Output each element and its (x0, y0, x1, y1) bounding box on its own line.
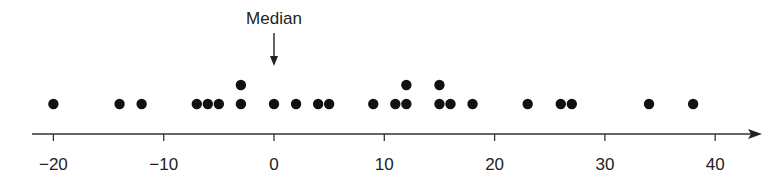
x-tick-label: −10 (149, 155, 178, 174)
data-point (556, 99, 566, 109)
data-point (401, 99, 411, 109)
median-arrow-down-icon (270, 56, 278, 66)
x-tick-label: 40 (706, 155, 725, 174)
x-axis (32, 129, 762, 139)
data-point (401, 80, 411, 90)
data-point (567, 99, 577, 109)
data-point (291, 99, 301, 109)
x-tick-label: 20 (485, 155, 504, 174)
data-point (48, 99, 58, 109)
data-point (114, 99, 124, 109)
data-point (136, 99, 146, 109)
x-tick-label: 0 (269, 155, 278, 174)
data-points (48, 80, 698, 109)
data-point (203, 99, 213, 109)
data-point (368, 99, 378, 109)
data-point (214, 99, 224, 109)
data-point (522, 99, 532, 109)
data-point (688, 99, 698, 109)
data-point (644, 99, 654, 109)
median-label: Median (246, 9, 302, 28)
x-ticks: −20−10010203040 (39, 134, 725, 174)
data-point (390, 99, 400, 109)
data-point (236, 99, 246, 109)
data-point (192, 99, 202, 109)
data-point (324, 99, 334, 109)
x-tick-label: 30 (595, 155, 614, 174)
data-point (313, 99, 323, 109)
x-tick-label: 10 (375, 155, 394, 174)
data-point (269, 99, 279, 109)
median-annotation: Median (246, 9, 302, 66)
data-point (236, 80, 246, 90)
x-tick-label: −20 (39, 155, 68, 174)
data-point (434, 80, 444, 90)
dot-plot: −20−10010203040 Median (0, 0, 776, 193)
data-point (434, 99, 444, 109)
data-point (445, 99, 455, 109)
data-point (467, 99, 477, 109)
